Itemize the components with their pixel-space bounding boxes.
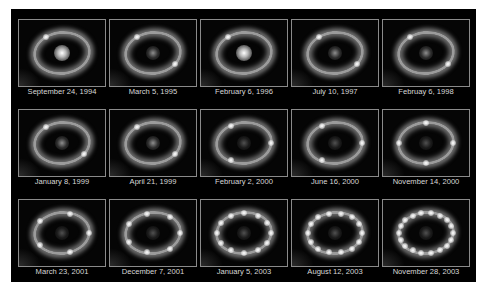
- image-panel: December 7, 2001: [109, 199, 197, 289]
- hot-spot: [396, 230, 402, 236]
- date-label: January 8, 1999: [18, 177, 106, 187]
- hot-spot: [316, 34, 322, 40]
- image-panel: March 5, 1995: [109, 19, 197, 109]
- hot-spot: [398, 237, 404, 243]
- date-label: Februay 6, 1998: [382, 87, 470, 97]
- supernova-core: [146, 226, 160, 240]
- image-panel: August 12, 2003: [291, 199, 379, 289]
- hot-spot: [338, 211, 344, 217]
- supernova-core: [328, 226, 342, 240]
- image-panel: November 14, 2000: [382, 109, 470, 199]
- hot-spot: [305, 230, 311, 236]
- background-haze: [292, 248, 314, 266]
- background-haze: [19, 248, 41, 266]
- hot-spot: [410, 247, 416, 253]
- supernova-core: [55, 136, 69, 150]
- hot-spot: [308, 239, 314, 245]
- hot-spot: [228, 123, 234, 129]
- ring-image: [109, 19, 197, 87]
- supernova-core: [237, 226, 251, 240]
- hot-spot: [437, 247, 443, 253]
- ring-image: [382, 19, 470, 87]
- image-panel: June 16, 2000: [291, 109, 379, 199]
- image-frame: September 24, 1994March 5, 1995February …: [11, 9, 476, 282]
- hot-spot: [134, 124, 140, 130]
- image-panel: March 23, 2001: [18, 199, 106, 289]
- background-haze: [292, 68, 314, 86]
- hot-spot: [326, 211, 332, 217]
- hot-spot: [228, 247, 234, 253]
- hot-spot: [423, 160, 429, 166]
- hot-spot: [172, 151, 178, 157]
- background-haze: [292, 158, 314, 176]
- hot-spot: [418, 250, 424, 256]
- hot-spot: [319, 123, 325, 129]
- image-panel: January 5, 2003: [200, 199, 288, 289]
- date-label: February 2, 2000: [200, 177, 288, 187]
- hot-spot: [428, 250, 434, 256]
- image-panel: February 6, 1996: [200, 19, 288, 109]
- ring-image: [109, 109, 197, 177]
- hot-spot: [255, 247, 261, 253]
- background-haze: [110, 158, 132, 176]
- supernova-core: [419, 136, 433, 150]
- background-haze: [201, 158, 223, 176]
- hot-spot: [444, 243, 450, 249]
- date-label: November 28, 2003: [382, 267, 470, 277]
- hot-spot: [255, 213, 261, 219]
- ring-image: [382, 199, 470, 267]
- hot-spot: [398, 223, 404, 229]
- hot-spot: [228, 213, 234, 219]
- background-haze: [19, 158, 41, 176]
- hot-spot: [349, 246, 355, 252]
- hot-spot: [172, 61, 178, 67]
- date-label: September 24, 1994: [18, 87, 106, 97]
- background-haze: [201, 248, 223, 266]
- hot-spot: [428, 210, 434, 216]
- background-haze: [383, 248, 405, 266]
- hot-spot: [448, 237, 454, 243]
- hot-spot: [167, 246, 173, 252]
- background-haze: [201, 68, 223, 86]
- hot-spot: [445, 61, 451, 67]
- hot-spot: [354, 61, 360, 67]
- date-label: June 16, 2000: [291, 177, 379, 187]
- hot-spot: [218, 240, 224, 246]
- hot-spot: [177, 230, 183, 236]
- hot-spot: [396, 140, 402, 146]
- date-label: December 7, 2001: [109, 267, 197, 277]
- hot-spot: [218, 220, 224, 226]
- supernova-core: [328, 136, 342, 150]
- hot-spot: [308, 221, 314, 227]
- date-label: March 23, 2001: [18, 267, 106, 277]
- hot-spot: [359, 230, 365, 236]
- date-label: August 12, 2003: [291, 267, 379, 277]
- ring-image: [291, 199, 379, 267]
- supernova-core: [237, 136, 251, 150]
- hot-spot: [214, 230, 220, 236]
- hot-spot: [264, 240, 270, 246]
- date-label: November 14, 2000: [382, 177, 470, 187]
- image-panel: April 21, 1999: [109, 109, 197, 199]
- hot-spot: [126, 221, 132, 227]
- hot-spot: [450, 230, 456, 236]
- hot-spot: [315, 246, 321, 252]
- supernova-core: [146, 136, 160, 150]
- supernova-core: [236, 45, 252, 61]
- background-haze: [110, 248, 132, 266]
- date-label: February 6, 1996: [200, 87, 288, 97]
- date-label: January 5, 2003: [200, 267, 288, 277]
- hot-spot: [268, 230, 274, 236]
- background-haze: [383, 68, 405, 86]
- image-panel: Februay 6, 1998: [382, 19, 470, 109]
- hot-spot: [134, 34, 140, 40]
- ring-image: [200, 199, 288, 267]
- hot-spot: [43, 124, 49, 130]
- background-haze: [19, 68, 41, 86]
- ring-image: [18, 109, 106, 177]
- image-panel: September 24, 1994: [18, 19, 106, 109]
- supernova-core: [419, 46, 433, 60]
- hot-spot: [338, 249, 344, 255]
- hot-spot: [268, 140, 274, 146]
- supernova-core: [419, 226, 433, 240]
